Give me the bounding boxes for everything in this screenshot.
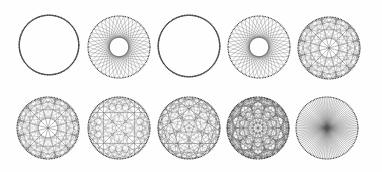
figure-canvas [0, 0, 382, 172]
pattern-7 [88, 97, 150, 159]
pattern-1 [19, 15, 79, 75]
pattern-4 [228, 16, 290, 78]
pattern-9 [227, 97, 289, 159]
pattern-6 [17, 97, 79, 159]
pattern-10 [296, 97, 358, 159]
pattern-3 [158, 15, 220, 77]
pattern-5 [298, 17, 360, 79]
pattern-2 [88, 16, 150, 78]
pattern-8 [158, 97, 220, 159]
string-art-grid [0, 0, 382, 172]
